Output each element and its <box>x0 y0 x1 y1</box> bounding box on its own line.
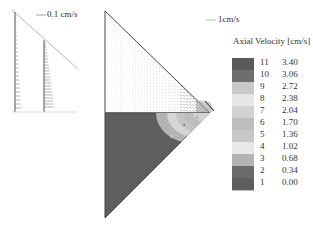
velocity-vector <box>177 23 179 24</box>
velocity-vector <box>201 89 205 91</box>
velocity-vector <box>207 98 211 101</box>
velocity-vector <box>165 17 166 18</box>
velocity-vector <box>198 95 201 97</box>
velocity-vector <box>207 56 211 59</box>
velocity-vector <box>186 47 188 48</box>
velocity-vector <box>180 29 182 30</box>
velocity-vector <box>195 62 198 64</box>
velocity-vector <box>204 26 208 29</box>
velocity-vector <box>174 59 176 60</box>
velocity-vector <box>183 35 185 36</box>
velocity-vector <box>204 47 208 50</box>
velocity-vector <box>177 77 179 78</box>
velocity-vector <box>168 35 169 36</box>
velocity-vector <box>207 32 211 35</box>
velocity-vector <box>192 47 195 49</box>
velocity-vector <box>183 83 185 84</box>
velocity-vector <box>165 29 166 30</box>
velocity-vector <box>177 44 179 45</box>
velocity-vector <box>183 65 185 66</box>
velocity-vector <box>180 38 182 39</box>
velocity-vector <box>195 32 198 34</box>
velocity-vector <box>183 20 185 21</box>
velocity-vector <box>207 38 211 41</box>
velocity-vector <box>198 83 201 85</box>
velocity-vector <box>204 23 208 26</box>
velocity-vector <box>201 86 205 88</box>
velocity-vector <box>195 71 198 73</box>
velocity-vector <box>165 68 166 69</box>
velocity-vector <box>204 71 208 74</box>
velocity-vector <box>174 32 176 33</box>
velocity-vector <box>201 50 205 52</box>
velocity-vector <box>204 65 208 68</box>
velocity-vector <box>171 59 173 60</box>
velocity-vector <box>168 68 169 69</box>
velocity-vector <box>198 98 201 100</box>
colorbar-level-index: 6 <box>260 117 265 127</box>
velocity-vector <box>204 98 208 101</box>
velocity-vector <box>192 56 195 58</box>
velocity-vector <box>195 44 198 46</box>
velocity-vector <box>195 80 198 82</box>
velocity-vector <box>165 38 166 39</box>
velocity-vector <box>201 65 205 67</box>
velocity-vector <box>198 44 201 46</box>
velocity-vector <box>177 41 179 42</box>
velocity-vector <box>174 68 176 69</box>
velocity-vector <box>204 92 208 95</box>
velocity-vector <box>195 26 198 28</box>
velocity-vector <box>180 50 182 51</box>
velocity-vector <box>207 59 211 62</box>
velocity-vector <box>174 38 176 39</box>
velocity-vector <box>186 17 188 18</box>
velocity-vector <box>186 23 188 24</box>
velocity-vector <box>195 95 198 97</box>
velocity-vector <box>195 83 198 85</box>
velocity-vector <box>165 62 166 63</box>
colorbar-level-value: 3.40 <box>282 57 298 67</box>
velocity-vector <box>189 14 192 16</box>
velocity-vector <box>180 14 182 15</box>
velocity-vector <box>168 32 169 33</box>
velocity-vector <box>204 32 208 35</box>
velocity-vector <box>201 35 205 37</box>
velocity-vector <box>201 95 205 97</box>
velocity-vector <box>195 68 198 70</box>
velocity-vector <box>192 74 195 76</box>
velocity-vector <box>195 20 198 22</box>
velocity-vector <box>201 38 205 40</box>
velocity-vector <box>204 74 208 77</box>
velocity-vector <box>177 50 179 51</box>
velocity-vector <box>171 74 173 75</box>
velocity-vector <box>174 71 176 72</box>
velocity-vector <box>198 20 201 22</box>
velocity-vector <box>204 62 208 65</box>
velocity-vector <box>207 71 211 74</box>
colorbar-level-index: 9 <box>260 81 265 91</box>
velocity-vector <box>195 65 198 67</box>
main-scale-label: 1cm/s <box>218 14 240 24</box>
velocity-vector <box>195 56 198 58</box>
velocity-vector <box>204 80 208 83</box>
velocity-vector <box>174 47 176 48</box>
velocity-vector <box>180 56 182 57</box>
colorbar-level-value: 0.00 <box>282 177 298 187</box>
velocity-vector <box>192 59 195 61</box>
velocity-vector <box>204 17 208 20</box>
velocity-vector <box>171 47 173 48</box>
velocity-vector <box>189 47 192 49</box>
contour-label-4: 4 <box>183 122 185 127</box>
velocity-vector <box>168 50 169 51</box>
velocity-vector <box>198 14 201 16</box>
velocity-vector <box>189 56 192 58</box>
velocity-vector <box>207 86 211 89</box>
velocity-vector <box>180 44 182 45</box>
velocity-vector <box>186 44 188 45</box>
velocity-vector <box>171 71 173 72</box>
velocity-vector <box>186 74 188 75</box>
colorbar-level-value: 1.70 <box>282 117 298 127</box>
velocity-vector <box>195 50 198 52</box>
colorbar <box>232 58 254 190</box>
velocity-vector <box>189 32 192 34</box>
